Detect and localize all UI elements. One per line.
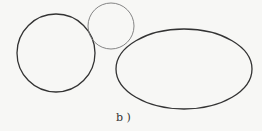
small-circle <box>88 3 134 49</box>
large-circle <box>17 14 95 92</box>
figure-label: b ) <box>116 111 131 124</box>
diagram-canvas <box>0 0 262 131</box>
ellipse <box>116 29 252 109</box>
